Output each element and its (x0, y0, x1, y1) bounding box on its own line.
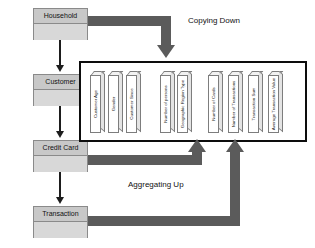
column-customer-age[interactable]: Customer Age (90, 71, 103, 134)
copying-down-arrow-shaft-horizontal (88, 16, 171, 26)
entity-transaction-body (34, 222, 87, 238)
column-number-of-transactions[interactable]: Number of Transactions (228, 71, 241, 134)
connector-household-customer (59, 40, 61, 67)
column-front-face (108, 75, 119, 133)
connector-creditcard-transaction (59, 172, 61, 199)
connector-customer-creditcard-arrowhead (56, 131, 64, 138)
column-number-of-persons[interactable]: Number of persons (160, 71, 173, 134)
column-gender[interactable]: Gender (108, 71, 121, 134)
entity-transaction[interactable]: Transaction (33, 206, 88, 238)
aggregating-up-arrow-2-shaft-vertical (230, 152, 240, 226)
entity-credit-card-body (34, 156, 87, 172)
entity-household-body (34, 24, 87, 40)
column-front-face (90, 75, 101, 133)
column-front-face (228, 75, 239, 133)
column-front-face (248, 75, 259, 133)
column-side-face (101, 71, 105, 132)
column-front-face (126, 75, 137, 133)
aggregating-up-arrow-1-arrowhead (188, 139, 206, 152)
copying-down-arrow-shaft-vertical (161, 16, 171, 45)
column-side-face (188, 71, 192, 132)
entity-credit-card-label: Credit Card (34, 141, 87, 156)
entity-credit-card[interactable]: Credit Card (33, 140, 88, 172)
column-geographic-region-type[interactable]: Geographic Region Type (177, 71, 190, 134)
connector-customer-creditcard (59, 106, 61, 133)
column-number-of-cards[interactable]: Number of Cards (208, 71, 221, 134)
aggregating-up-arrow-1-shaft-horizontal (88, 155, 202, 165)
column-side-face (279, 71, 283, 132)
column-front-face (160, 75, 171, 133)
copying-down-arrowhead (157, 45, 175, 58)
column-side-face (219, 71, 223, 132)
diagram-canvas: Household Customer Credit Card Transacti… (0, 0, 315, 248)
connector-creditcard-transaction-arrowhead (56, 197, 64, 204)
column-front-face (208, 75, 219, 133)
entity-transaction-label: Transaction (34, 207, 87, 222)
column-side-face (239, 71, 243, 132)
column-side-face (119, 71, 123, 132)
column-side-face (171, 71, 175, 132)
column-side-face (137, 71, 141, 132)
column-average-transaction-value[interactable]: Average Transaction Value (268, 71, 281, 134)
column-front-face (268, 75, 279, 133)
entity-household-label: Household (34, 9, 87, 24)
attribute-columns-container: Customer Age Gender Customer Since Numbe… (79, 61, 307, 142)
column-side-face (259, 71, 263, 132)
entity-household[interactable]: Household (33, 8, 88, 40)
connector-household-customer-arrowhead (56, 65, 64, 72)
aggregating-up-arrow-1-shaft-vertical (192, 151, 202, 165)
copying-down-label: Copying Down (188, 16, 240, 25)
column-front-face (177, 75, 188, 133)
column-transaction-sum[interactable]: Transaction Sum (248, 71, 261, 134)
aggregating-up-label: Aggregating Up (128, 180, 184, 189)
aggregating-up-arrow-2-shaft-horizontal (88, 216, 240, 226)
aggregating-up-arrow-2-arrowhead (226, 139, 244, 152)
column-customer-since[interactable]: Customer Since (126, 71, 139, 134)
